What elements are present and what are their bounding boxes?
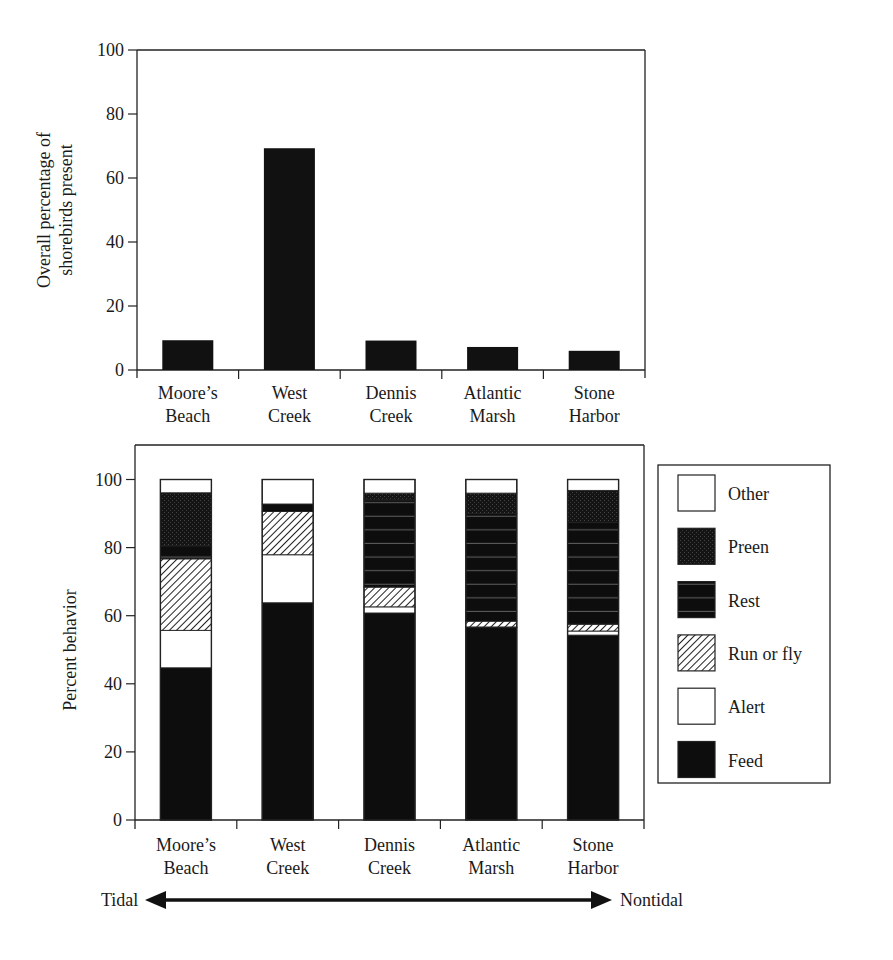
x-tick-label: Atlantic (464, 383, 522, 403)
x-tick-label: Creek (368, 858, 411, 878)
y-tick-label: 0 (113, 810, 122, 830)
nontidal-label: Nontidal (620, 890, 683, 910)
y-tick-label: 40 (104, 674, 122, 694)
x-tick-label: West (272, 383, 308, 403)
top-axes: 020406080100 (97, 40, 645, 380)
legend-swatch (678, 582, 715, 618)
bar (366, 341, 417, 370)
y-tick-label: 20 (106, 296, 124, 316)
x-tick-label: Stone (573, 835, 614, 855)
x-tick-label: Creek (266, 858, 309, 878)
segment-alert (568, 631, 619, 635)
y-tick-label: 80 (106, 104, 124, 124)
bar (467, 347, 518, 370)
bar (264, 148, 315, 370)
legend-swatch (678, 742, 715, 778)
legend-swatch (678, 475, 715, 511)
segment-alert (364, 607, 415, 613)
x-tick-label: Harbor (569, 406, 620, 426)
segment-feed (364, 613, 415, 820)
segment-run-or-fly (262, 512, 313, 555)
segment-run-or-fly (466, 621, 517, 627)
legend: OtherPreenRestRun or flyAlertFeed (658, 465, 830, 783)
y-tick-label: 0 (115, 360, 124, 380)
stacked-bar-chart: Percent behavior 020406080100 Moore’sBea… (60, 445, 644, 878)
x-tick-label: Harbor (568, 858, 619, 878)
segment-preen (568, 490, 619, 522)
stacked-bar (262, 480, 313, 821)
x-tick-label: Marsh (468, 858, 514, 878)
segment-rest (262, 504, 313, 511)
y-axis-label: Overall percentage of (34, 132, 54, 288)
legend-label: Other (728, 484, 769, 504)
x-tick-label: Atlantic (462, 835, 520, 855)
segment-rest (466, 514, 517, 622)
segment-feed (262, 603, 313, 820)
segment-preen (160, 493, 211, 546)
segment-feed (568, 635, 619, 820)
segment-rest (364, 500, 415, 587)
x-tick-label: Creek (268, 406, 311, 426)
figure: Overall percentage ofshorebirds present … (0, 0, 893, 960)
x-tick-label: Moore’s (156, 835, 216, 855)
bottom-y-axis-label: Percent behavior (60, 589, 80, 710)
y-tick-label: 100 (95, 470, 122, 490)
bottom-x-tick-labels: Moore’sBeachWestCreekDennisCreekAtlantic… (156, 835, 619, 878)
y-tick-label: 60 (104, 606, 122, 626)
x-tick-label: Moore’s (158, 383, 218, 403)
y-tick-label: 100 (97, 40, 124, 60)
segment-run-or-fly (364, 587, 415, 607)
legend-swatch (678, 688, 715, 724)
arrow-right-head-icon (591, 891, 612, 909)
top-bars (162, 148, 619, 370)
stacked-bar (364, 480, 415, 821)
segment-alert (160, 630, 211, 667)
tidal-gradient-arrow: TidalNontidal (101, 890, 683, 910)
legend-swatch (678, 635, 715, 671)
stacked-bar (466, 480, 517, 821)
x-tick-label: Marsh (470, 406, 516, 426)
segment-other (568, 480, 619, 491)
top-x-tick-labels: Moore’sBeachWestCreekDennisCreekAtlantic… (158, 383, 620, 426)
arrow-left-head-icon (145, 891, 166, 909)
segment-feed (160, 668, 211, 820)
x-tick-label: Beach (163, 858, 208, 878)
top-bar-chart: Overall percentage ofshorebirds present … (34, 40, 645, 426)
segment-rest (568, 522, 619, 624)
tidal-label: Tidal (101, 890, 138, 910)
legend-swatch (678, 528, 715, 564)
x-tick-label: West (270, 835, 306, 855)
segment-alert (262, 555, 313, 603)
legend-label: Rest (728, 591, 760, 611)
y-axis-label: shorebirds present (56, 144, 76, 275)
segment-feed (466, 628, 517, 820)
x-tick-label: Dennis (364, 835, 415, 855)
segment-preen (364, 493, 415, 500)
segment-other (160, 480, 211, 493)
segment-run-or-fly (568, 624, 619, 631)
bar (162, 340, 213, 370)
segment-run-or-fly (160, 559, 211, 631)
stacked-bar (568, 480, 619, 821)
y-axis-label: Percent behavior (60, 589, 80, 710)
stacked-bars (160, 480, 618, 821)
bar (569, 351, 620, 370)
legend-label: Run or fly (728, 644, 802, 664)
y-tick-label: 40 (106, 232, 124, 252)
y-tick-label: 80 (104, 538, 122, 558)
segment-rest (160, 546, 211, 559)
segment-other (262, 480, 313, 505)
segment-other (364, 480, 415, 494)
legend-label: Preen (728, 537, 769, 557)
y-tick-label: 60 (106, 168, 124, 188)
segment-other (466, 480, 517, 494)
legend-label: Feed (728, 751, 763, 771)
x-tick-label: Stone (574, 383, 615, 403)
x-tick-label: Beach (165, 406, 210, 426)
legend-box (658, 465, 830, 783)
legend-label: Alert (728, 697, 765, 717)
y-tick-label: 20 (104, 742, 122, 762)
segment-preen (466, 493, 517, 513)
x-tick-label: Dennis (366, 383, 417, 403)
stacked-bar (160, 480, 211, 821)
